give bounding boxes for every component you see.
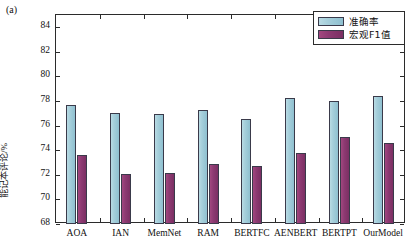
y-axis-tick-label: 74: [28, 144, 50, 154]
y-axis-tick-label: 68: [28, 218, 50, 228]
bar-accuracy-ian: [110, 113, 120, 224]
x-axis-tick-label: OurModel: [363, 228, 403, 238]
x-axis-tick: [187, 218, 188, 222]
x-axis-tick: [275, 218, 276, 222]
y-axis-tick-labels: 687072747678808284: [26, 0, 50, 252]
x-axis-tick-top: [231, 15, 232, 19]
y-axis-tick-right: [400, 199, 404, 200]
y-axis-tick: [56, 27, 60, 28]
y-axis-tick-right: [400, 224, 404, 225]
y-axis-tick-right: [400, 150, 404, 151]
x-axis-tick-labels: AOAIANMemNetRAMBERTFCAENBERTBERTPTOurMod…: [55, 228, 405, 248]
x-axis-tick-label: MemNet: [147, 228, 181, 238]
x-axis-tick-label: IAN: [112, 228, 129, 238]
y-axis-tick-right: [400, 175, 404, 176]
x-axis-tick-label: AOA: [67, 228, 88, 238]
bar-accuracy-bertpt: [329, 101, 339, 224]
x-axis-tick-label: BERTPT: [322, 228, 357, 238]
bar-accuracy-bertfc: [241, 119, 251, 224]
legend-item-macro-f1: 宏观F1值: [318, 28, 400, 41]
bar-macro-f1-ian: [121, 174, 131, 224]
bar-accuracy-aenbert: [285, 98, 295, 224]
y-axis-tick-right: [400, 126, 404, 127]
legend-label-macro-f1: 宏观F1值: [349, 30, 391, 40]
legend-swatch-macro-f1-icon: [318, 30, 344, 39]
legend: 准确率 宏观F1值: [313, 11, 405, 45]
plot-area: [55, 14, 405, 223]
bar-macro-f1-ram: [209, 164, 219, 224]
x-axis-tick-top: [144, 15, 145, 19]
y-axis-tick-right: [400, 101, 404, 102]
bar-accuracy-ourmodel: [373, 96, 383, 224]
x-axis-tick-label: BERTFC: [234, 228, 269, 238]
y-axis-tick: [56, 150, 60, 151]
y-axis-tick: [56, 224, 60, 225]
figure-panel: (a) 能记本评论/% 687072747678808284 AOAIANMem…: [0, 0, 418, 252]
y-axis-tick: [56, 76, 60, 77]
bar-macro-f1-memnet: [165, 173, 175, 224]
y-axis-tick-label: 78: [28, 95, 50, 105]
y-axis-tick: [56, 199, 60, 200]
x-axis-tick-top: [275, 15, 276, 19]
y-axis-tick: [56, 52, 60, 53]
bar-macro-f1-ourmodel: [384, 143, 394, 224]
bar-accuracy-aoa: [66, 105, 76, 224]
y-axis-tick: [56, 175, 60, 176]
x-axis-tick: [144, 218, 145, 222]
y-axis-tick: [56, 126, 60, 127]
y-axis-label-text: 能记本评论/%: [0, 78, 10, 198]
bar-accuracy-ram: [198, 110, 208, 224]
legend-swatch-accuracy-icon: [318, 17, 344, 26]
bar-series-container: [56, 15, 404, 222]
x-axis-tick-label: RAM: [197, 228, 219, 238]
y-axis-tick-right: [400, 76, 404, 77]
x-axis-tick: [319, 218, 320, 222]
bar-macro-f1-bertfc: [252, 166, 262, 224]
y-axis-tick-label: 72: [28, 169, 50, 179]
x-axis-tick: [362, 218, 363, 222]
y-axis-tick: [56, 101, 60, 102]
x-axis-tick-label: AENBERT: [274, 228, 317, 238]
x-axis-tick: [231, 218, 232, 222]
x-axis-tick-top: [187, 15, 188, 19]
x-axis-tick-top: [100, 15, 101, 19]
bar-macro-f1-aoa: [77, 155, 87, 224]
legend-item-accuracy: 准确率: [318, 15, 400, 28]
legend-label-accuracy: 准确率: [349, 17, 379, 27]
bar-macro-f1-bertpt: [340, 137, 350, 224]
y-axis-tick-right: [400, 52, 404, 53]
y-axis-label: 能记本评论/%: [0, 0, 10, 78]
bar-macro-f1-aenbert: [296, 153, 306, 224]
y-axis-tick-label: 70: [28, 193, 50, 203]
x-axis-tick: [100, 218, 101, 222]
y-axis-tick-label: 84: [28, 21, 50, 31]
bar-accuracy-memnet: [154, 114, 164, 224]
y-axis-tick-label: 82: [28, 46, 50, 56]
y-axis-tick-label: 76: [28, 120, 50, 130]
y-axis-tick-label: 80: [28, 70, 50, 80]
